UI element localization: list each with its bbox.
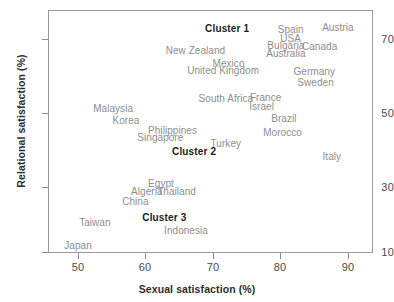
data-point-label: United Kingdom: [187, 65, 259, 76]
data-point-label: Singapore: [137, 132, 183, 143]
data-point-label: Germany: [294, 65, 335, 76]
data-point-label: Sweden: [297, 76, 333, 87]
x-tick-mark-50: [78, 253, 79, 259]
data-point-label: Austria: [322, 21, 353, 32]
data-point-label: Italy: [323, 150, 342, 161]
x-axis-title: Sexual satisfaction (%): [0, 283, 394, 295]
y-tick-mark-30: [42, 187, 49, 188]
scatter-plot-figure: 70 50 30 10 50 60 70 80 90 Sexual satisf…: [0, 0, 394, 302]
data-point-label: Korea: [112, 115, 139, 126]
y-tick-mark-10: [42, 252, 49, 253]
x-tick-mark-70: [213, 253, 214, 259]
data-point-label: China: [122, 195, 148, 206]
data-point-label: Canada: [302, 41, 337, 52]
x-tick-label-70: 70: [193, 261, 233, 273]
y-tick-mark-70: [42, 39, 49, 40]
x-tick-label-50: 50: [58, 261, 98, 273]
data-point-label: Thailand: [157, 186, 196, 197]
cluster-annotation: Cluster 1: [205, 22, 249, 33]
x-tick-mark-60: [145, 253, 146, 259]
data-point-label: Japan: [64, 240, 92, 251]
x-tick-label-90: 90: [328, 261, 368, 273]
y-axis-title: Relational satisfaction (%): [15, 6, 27, 236]
data-point-label: Indonesia: [164, 224, 208, 235]
y-tick-label-10: 10: [358, 246, 394, 258]
x-tick-mark-80: [280, 253, 281, 259]
data-point-label: South Africa: [199, 92, 254, 103]
data-point-label: Australia: [266, 47, 305, 58]
data-point-label: Brazil: [271, 113, 296, 124]
cluster-annotation: Cluster 3: [142, 212, 186, 223]
y-tick-label-30: 30: [358, 181, 394, 193]
data-point-label: Morocco: [263, 126, 302, 137]
y-tick-label-50: 50: [358, 107, 394, 119]
data-point-label: Israel: [249, 100, 274, 111]
cluster-annotation: Cluster 2: [172, 145, 216, 156]
x-tick-mark-90: [348, 253, 349, 259]
data-point-label: New Zealand: [166, 44, 225, 55]
x-tick-label-80: 80: [260, 261, 300, 273]
y-tick-label-70: 70: [358, 33, 394, 45]
data-point-label: Malaysia: [93, 102, 133, 113]
data-point-label: Taiwan: [79, 216, 110, 227]
y-tick-mark-50: [42, 113, 49, 114]
x-tick-label-60: 60: [125, 261, 165, 273]
